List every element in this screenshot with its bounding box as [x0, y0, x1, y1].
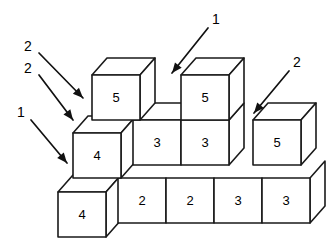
cube: 3: [214, 178, 262, 223]
callout-label: 2: [24, 38, 32, 54]
isometric-cube-svg: 42233433555 22112: [0, 0, 326, 247]
cube: 5: [92, 58, 155, 120]
cube-number-label: 3: [282, 193, 289, 208]
cube-number-label: 5: [112, 90, 119, 105]
cube-number-label: 3: [201, 135, 208, 150]
cube: 4: [58, 175, 121, 237]
callout-label: 2: [24, 60, 32, 76]
cube-number-label: 3: [234, 193, 241, 208]
callout-label: 2: [293, 54, 301, 70]
callout-label: 1: [17, 104, 25, 120]
cube-number-label: 3: [153, 135, 160, 150]
cube-diagram-figure: 42233433555 22112: [0, 0, 326, 247]
cube-number-label: 4: [93, 148, 100, 163]
cube-number-label: 2: [186, 193, 193, 208]
cube: 2: [118, 178, 166, 223]
cube: 5: [181, 58, 244, 120]
cube: 5: [253, 103, 316, 165]
callout-label: 1: [212, 11, 220, 27]
cube-number-label: 4: [78, 207, 85, 222]
cube-number-label: 5: [201, 90, 208, 105]
cube-number-label: 5: [273, 135, 280, 150]
cube-number-label: 2: [138, 193, 145, 208]
cube: 4: [73, 116, 136, 178]
cube: 2: [166, 178, 214, 223]
